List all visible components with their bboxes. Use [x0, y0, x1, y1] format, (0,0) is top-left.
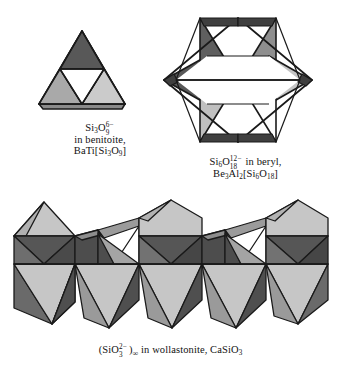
caption-beryl-line2: Be3Al2[Si6O18] — [150, 168, 341, 180]
cap1-si: Si — [85, 122, 94, 133]
cap3-casio3-sub: 3 — [239, 349, 243, 357]
caption-wollastonite: (SiO2−3)∞ in wollastonite, CaSiO3 — [0, 344, 341, 359]
cap2-charge: 12− — [230, 156, 242, 163]
cap1-o-count: 9 — [106, 130, 110, 137]
cap2-in-beryl: in beryl, — [243, 156, 282, 167]
chain-svg — [12, 196, 332, 338]
cap3-o-count: 3 — [119, 352, 123, 359]
caption-beryl: Si6O12−18 in beryl, Be3Al2[Si6O18] — [150, 156, 341, 179]
caption-wollastonite-line1: (SiO2−3)∞ in wollastonite, CaSiO3 — [0, 344, 341, 359]
beryl-svg — [160, 8, 315, 148]
cap2-o-count: 18 — [230, 164, 237, 171]
cap1-mineral-o: O — [111, 145, 119, 156]
beryl-limb-downleft — [200, 134, 238, 142]
cap3-in-wollastonite: in wollastonite, CaSiO — [138, 344, 238, 355]
caption-beryl-line1: Si6O12−18 in beryl, — [150, 156, 341, 168]
beryl-limb-downright — [238, 134, 276, 142]
cap2-close-bracket: ] — [274, 168, 278, 179]
figure-benitoite-trimer — [27, 24, 137, 116]
figure-beryl-hexaring — [160, 8, 315, 148]
cap2-o2: O — [259, 168, 267, 179]
cap1-mineral-close: ] — [123, 145, 127, 156]
trimer-face-top-dark — [60, 31, 104, 69]
cap2-bracket-si: [Si — [243, 168, 256, 179]
trimer-svg — [27, 24, 137, 116]
cap1-o: O — [98, 122, 106, 133]
beryl-limb-upleft — [200, 18, 238, 26]
cap3-charge: 2− — [119, 344, 127, 351]
cap2-be: Be — [213, 168, 225, 179]
cap1-charge: 6− — [106, 122, 114, 129]
figure-wollastonite-chain — [12, 196, 332, 338]
cap2-o: O — [222, 156, 230, 167]
cap3-sio: (SiO — [99, 344, 119, 355]
cap1-mineral-a: BaTi[Si — [74, 145, 108, 156]
figure-page: Si3O6−9 in benitoite, BaTi[Si3O9] — [0, 0, 341, 378]
beryl-limb-upright — [238, 18, 276, 26]
